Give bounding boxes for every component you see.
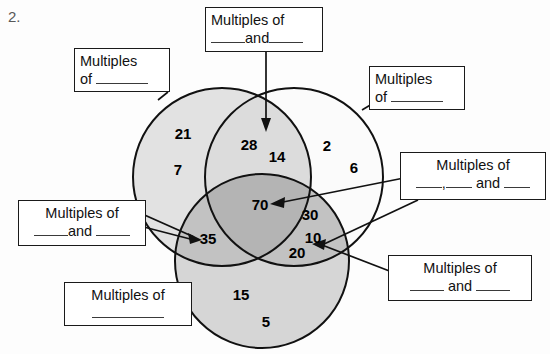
region-value-2: 2	[323, 137, 331, 154]
callout-multiples-of-right-bottom[interactable]: Multiples of and	[388, 255, 532, 301]
callout-left-line1: Multiples	[80, 52, 164, 70]
blank-field[interactable]	[391, 101, 443, 102]
callout-multiples-of-three[interactable]: Multiples of , and	[400, 152, 546, 200]
callout-left-of: of	[80, 71, 96, 87]
region-value-6: 6	[350, 159, 358, 176]
callout-lb-line2: and	[24, 222, 140, 240]
callout-multiples-of-two[interactable]: Multiples of and	[205, 7, 323, 52]
region-value-10: 10	[305, 229, 322, 246]
region-value-5: 5	[262, 313, 270, 330]
region-value-7: 7	[174, 161, 182, 178]
region-value-35: 35	[200, 230, 217, 247]
callout-right-line1: Multiples	[375, 70, 459, 88]
blank-field[interactable]	[504, 187, 530, 188]
callout-rb-and: and	[448, 278, 472, 294]
region-value-70: 70	[252, 196, 269, 213]
blank-field[interactable]	[211, 42, 245, 43]
blank-field[interactable]	[96, 235, 130, 236]
callout-multiples-of-left[interactable]: Multiples of	[74, 48, 170, 92]
region-value-15: 15	[233, 286, 250, 303]
callout-right-line2: of	[375, 88, 459, 106]
callout-triple-and: and	[476, 175, 500, 191]
callout-triple-line2: , and	[406, 174, 540, 192]
callout-triple-line1: Multiples of	[406, 156, 540, 174]
callout-multiples-of-left-bottom[interactable]: Multiples of and	[18, 200, 146, 246]
callout-triple-comma: ,	[442, 175, 446, 191]
blank-field[interactable]	[96, 83, 148, 84]
callout-top-line2: and	[211, 29, 317, 47]
connector-top-left	[158, 92, 168, 100]
region-value-21: 21	[175, 125, 192, 142]
callout-multiples-of-bottom[interactable]: Multiples of	[64, 282, 192, 326]
callout-top-line1: Multiples of	[211, 11, 317, 29]
callout-rb-line1: Multiples of	[394, 259, 526, 277]
callout-top-and: and	[245, 30, 269, 46]
worksheet-page: 2.	[0, 0, 550, 354]
blank-field[interactable]	[446, 187, 472, 188]
blank-field[interactable]	[269, 42, 303, 43]
callout-right-of: of	[375, 89, 391, 105]
blank-field[interactable]	[410, 290, 444, 291]
callout-lb-line1: Multiples of	[24, 204, 140, 222]
callout-rb-line2: and	[394, 277, 526, 295]
region-value-30: 30	[302, 206, 319, 223]
region-value-14: 14	[269, 148, 286, 165]
blank-field[interactable]	[476, 290, 510, 291]
callout-left-line2: of	[80, 70, 164, 88]
blank-field[interactable]	[92, 317, 164, 318]
region-value-28: 28	[241, 136, 258, 153]
callout-bottom-line2	[70, 304, 186, 322]
blank-field[interactable]	[416, 187, 442, 188]
blank-field[interactable]	[34, 235, 68, 236]
callout-bottom-line1: Multiples of	[70, 286, 186, 304]
callout-multiples-of-right[interactable]: Multiples of	[369, 66, 465, 110]
region-value-20: 20	[289, 244, 306, 261]
callout-lb-and: and	[68, 223, 92, 239]
